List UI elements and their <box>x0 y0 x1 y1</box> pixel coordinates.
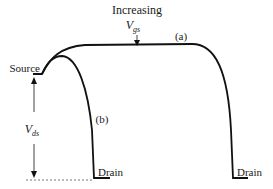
vgs-symbol: Vgs <box>126 18 140 34</box>
curve-b-label: (b) <box>96 113 109 126</box>
curve-a <box>33 44 248 178</box>
drain-label-b: Drain <box>98 166 124 178</box>
increasing-label: Increasing <box>112 3 162 17</box>
source-label: Source <box>9 62 40 74</box>
curve-a-label: (a) <box>175 30 188 43</box>
drain-label-a: Drain <box>237 166 263 178</box>
vds-arrow-up-icon <box>31 77 37 84</box>
vds-symbol: Vds <box>25 122 39 138</box>
mosfet-potential-diagram: Increasing Vgs (a) (b) Source Drain Drai… <box>0 0 273 189</box>
vds-arrow-down-icon <box>31 171 37 178</box>
